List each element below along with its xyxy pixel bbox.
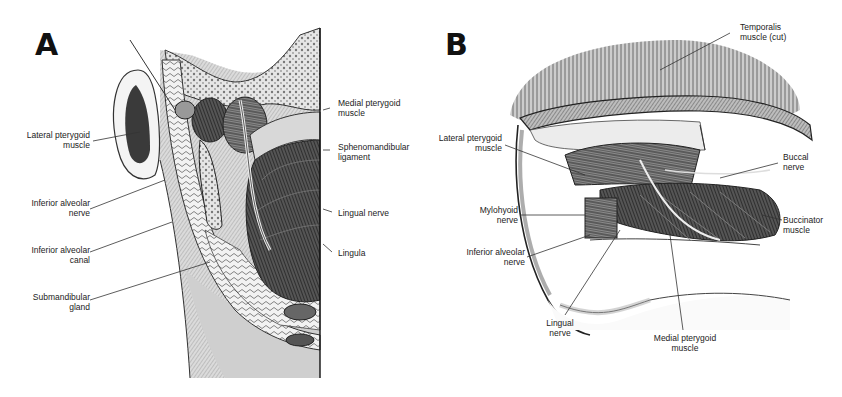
panel-a-art <box>90 28 332 378</box>
label-b-temporalis-muscle-cut: Temporalis muscle (cut) <box>740 22 786 42</box>
label-line: Buccinator <box>783 215 823 225</box>
label-line: nerve <box>440 257 525 267</box>
label-a-submandibular-gland: Submandibular gland <box>10 292 90 312</box>
label-line: Lingual <box>530 318 590 328</box>
label-line: Medial pterygoid <box>338 98 400 108</box>
label-line: Lingula <box>338 248 365 258</box>
label-b-buccinator-muscle: Buccinator muscle <box>783 215 823 235</box>
label-b-inferior-alveolar-nerve: Inferior alveolar nerve <box>440 247 525 267</box>
label-line: Inferior alveolar <box>10 198 90 208</box>
label-line: ligament <box>338 152 409 162</box>
label-line: muscle <box>783 225 823 235</box>
panel-b-letter: B <box>445 30 468 60</box>
label-line: muscle <box>338 108 400 118</box>
label-b-lingual-nerve: Lingual nerve <box>530 318 590 338</box>
label-line: Submandibular <box>10 292 90 302</box>
label-line: nerve <box>10 208 90 218</box>
label-line: Lingual nerve <box>338 208 389 218</box>
label-line: nerve <box>440 215 518 225</box>
label-b-buccal-nerve: Buccal nerve <box>783 152 809 172</box>
label-line: gland <box>10 302 90 312</box>
label-line: muscle <box>420 143 502 153</box>
label-line: muscle (cut) <box>740 32 786 42</box>
label-line: nerve <box>783 162 809 172</box>
label-a-lateral-pterygoid-muscle: Lateral pterygoid muscle <box>10 130 90 150</box>
label-line: Lateral pterygoid <box>420 133 502 143</box>
label-line: Inferior alveolar <box>10 245 90 255</box>
label-line: Temporalis <box>740 22 786 32</box>
label-line: Mylohyoid <box>440 205 518 215</box>
label-b-medial-pterygoid-muscle: Medial pterygoid muscle <box>640 333 730 353</box>
panel-b-art <box>505 33 812 335</box>
label-a-inferior-alveolar-nerve: Inferior alveolar nerve <box>10 198 90 218</box>
label-a-lingula: Lingula <box>338 248 365 258</box>
label-line: canal <box>10 255 90 265</box>
label-line: nerve <box>530 328 590 338</box>
label-line: Inferior alveolar <box>440 247 525 257</box>
label-line: muscle <box>10 140 90 150</box>
label-line: muscle <box>640 343 730 353</box>
label-a-lingual-nerve: Lingual nerve <box>338 208 389 218</box>
label-line: Lateral pterygoid <box>10 130 90 140</box>
label-line: Buccal <box>783 152 809 162</box>
label-b-mylohyoid-nerve: Mylohyoid nerve <box>440 205 518 225</box>
label-b-lateral-pterygoid-muscle: Lateral pterygoid muscle <box>420 133 502 153</box>
label-a-medial-pterygoid-muscle: Medial pterygoid muscle <box>338 98 400 118</box>
label-line: Sphenomandibular <box>338 142 409 152</box>
label-line: Medial pterygoid <box>640 333 730 343</box>
label-a-sphenomandibular-ligament: Sphenomandibular ligament <box>338 142 409 162</box>
label-a-inferior-alveolar-canal: Inferior alveolar canal <box>10 245 90 265</box>
panel-a-letter: A <box>35 30 58 60</box>
